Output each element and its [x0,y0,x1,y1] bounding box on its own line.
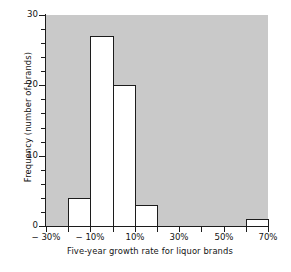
y-axis-title: Frequency (number of brands) [23,17,33,217]
y-axis-minor-tick [41,198,46,199]
y-axis-major-tick [39,156,46,157]
histogram-bar [246,219,269,227]
x-axis-tick-label: − 10% [67,232,113,242]
y-axis-minor-tick [41,43,46,44]
x-axis-tick-label: 50% [201,232,247,242]
x-axis-tick-label: 30% [156,232,202,242]
plot-panel [46,15,268,226]
histogram-figure: 0102030 − 30%− 10%10%30%50%70% Frequency… [0,0,291,272]
x-axis-tick-label: 70% [245,232,291,242]
histogram-bar [68,198,91,227]
histogram-bar [113,85,136,227]
histogram-bar [90,36,114,227]
y-axis-major-tick [39,15,46,16]
y-axis-tick-label: 0 [0,220,38,230]
y-axis-minor-tick [41,128,46,129]
y-axis-minor-tick [41,57,46,58]
y-axis-minor-tick [41,29,46,30]
y-axis-major-tick [39,226,46,227]
y-axis-line [45,14,46,227]
y-axis-minor-tick [41,170,46,171]
y-axis-minor-tick [41,113,46,114]
y-axis-major-tick [39,85,46,86]
x-axis-title: Five-year growth rate for liquor brands [30,246,270,256]
y-axis-minor-tick [41,184,46,185]
y-axis-minor-tick [41,71,46,72]
y-axis-minor-tick [41,212,46,213]
x-axis-tick-label: − 30% [23,232,69,242]
histogram-bar [135,205,158,227]
y-axis-minor-tick [41,99,46,100]
y-axis-minor-tick [41,142,46,143]
x-axis-tick-label: 10% [112,232,158,242]
